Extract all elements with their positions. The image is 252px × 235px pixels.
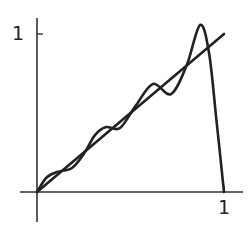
y-tick-label: 1: [12, 24, 24, 43]
chart-plot: [0, 0, 252, 235]
x-tick-label: 1: [218, 198, 230, 217]
